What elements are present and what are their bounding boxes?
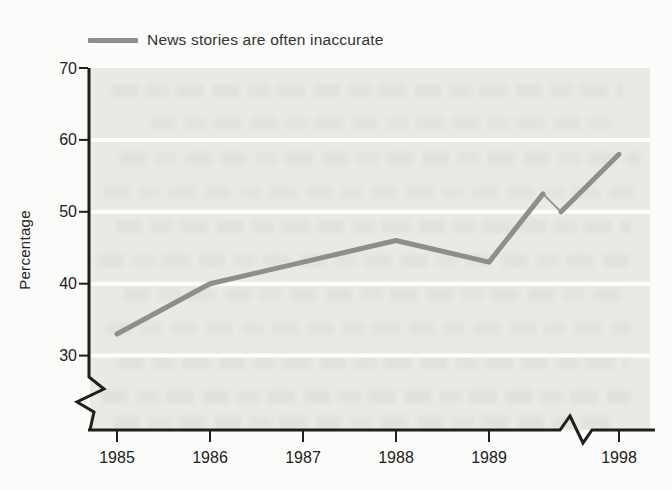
x-tick-label-1988: 1988 xyxy=(378,449,414,466)
axis-tick-labels: 7060504030198519861987198819891998 xyxy=(59,60,637,467)
y-tick-label-50: 50 xyxy=(59,203,77,220)
axis-ticks xyxy=(79,68,619,442)
y-tick-label-40: 40 xyxy=(59,275,77,292)
line-chart: 7060504030198519861987198819891998 Perce… xyxy=(0,0,672,490)
series-line-right xyxy=(561,154,619,212)
y-tick-label-30: 30 xyxy=(59,347,77,364)
series-break-connector xyxy=(543,194,561,212)
y-axis-line xyxy=(77,68,104,430)
x-tick-label-1998: 1998 xyxy=(601,449,637,466)
x-tick-label-1989: 1989 xyxy=(471,449,507,466)
x-tick-label-1986: 1986 xyxy=(192,449,228,466)
chart-figure: News stories are often inaccurate 706050… xyxy=(0,0,672,490)
y-tick-label-70: 70 xyxy=(59,60,77,77)
y-tick-label-60: 60 xyxy=(59,131,77,148)
x-tick-label-1985: 1985 xyxy=(99,449,135,466)
x-tick-label-1987: 1987 xyxy=(285,449,321,466)
data-series xyxy=(117,154,619,334)
x-axis-line xyxy=(88,416,655,443)
series-line-left xyxy=(117,194,543,334)
y-axis-title: Percentage xyxy=(16,210,33,290)
